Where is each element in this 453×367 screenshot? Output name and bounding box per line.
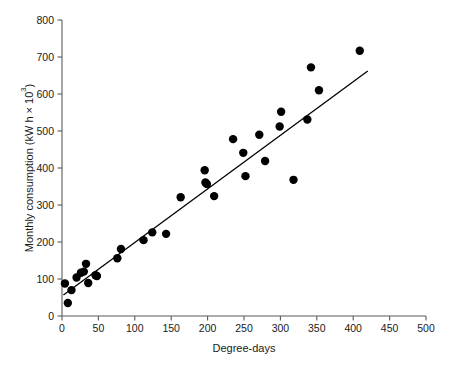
data-point [239,149,247,157]
data-point [176,193,184,201]
data-point [275,122,283,130]
x-axis-title: Degree-days [213,342,276,354]
data-point [289,176,297,184]
data-point [162,230,170,238]
x-tick-label: 50 [93,322,105,334]
axis-titles-layer: Degree-daysMonthly consumption (kW h × 1… [18,84,276,354]
x-tick-label: 100 [126,322,144,334]
y-axis-title-tail: ) [23,84,35,88]
x-tick-label: 250 [235,322,253,334]
x-tick-label: 150 [162,322,180,334]
x-tick-label: 200 [199,322,217,334]
data-point [210,192,218,200]
y-axis-title-main: Monthly consumption (kW h × 10 [23,92,35,253]
data-point [315,86,323,94]
y-tick-label: 600 [36,88,54,100]
data-point [307,63,315,71]
y-axis-title: Monthly consumption (kW h × 103) [18,84,35,252]
y-tick-label: 0 [48,310,54,322]
y-tick-label: 500 [36,125,54,137]
y-tick-label: 100 [36,273,54,285]
data-point [82,260,90,268]
x-tick-label: 350 [308,322,326,334]
regression-line [63,71,367,295]
data-point [277,108,285,116]
x-tick-label: 300 [272,322,290,334]
data-point [241,172,249,180]
x-tick-label: 0 [59,322,65,334]
scatter-plot: 0100200300400500600700800 05010015020025… [0,0,453,367]
y-axis: 0100200300400500600700800 [36,14,62,322]
data-point [200,166,208,174]
y-tick-label: 300 [36,199,54,211]
data-point [61,279,69,287]
data-point [303,115,311,123]
data-point [80,267,88,275]
y-tick-label: 200 [36,236,54,248]
data-point [64,299,72,307]
y-tick-label: 700 [36,51,54,63]
x-tick-label: 400 [344,322,362,334]
chart-figure: 0100200300400500600700800 05010015020025… [0,0,453,367]
x-axis: 050100150200250300350400450500 [59,316,435,334]
data-point [261,157,269,165]
y-tick-label: 400 [36,162,54,174]
data-point [139,236,147,244]
data-point [255,131,263,139]
data-point [84,279,92,287]
data-points-layer [61,47,364,308]
y-tick-label: 800 [36,14,54,26]
x-tick-label: 450 [381,322,399,334]
data-point [356,47,364,55]
x-tick-label: 500 [417,322,435,334]
data-point [229,135,237,143]
regression-line-layer [63,71,367,295]
